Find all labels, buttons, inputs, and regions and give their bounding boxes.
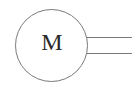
- motor-label: M: [41, 29, 62, 55]
- motor-symbol: M: [0, 0, 136, 87]
